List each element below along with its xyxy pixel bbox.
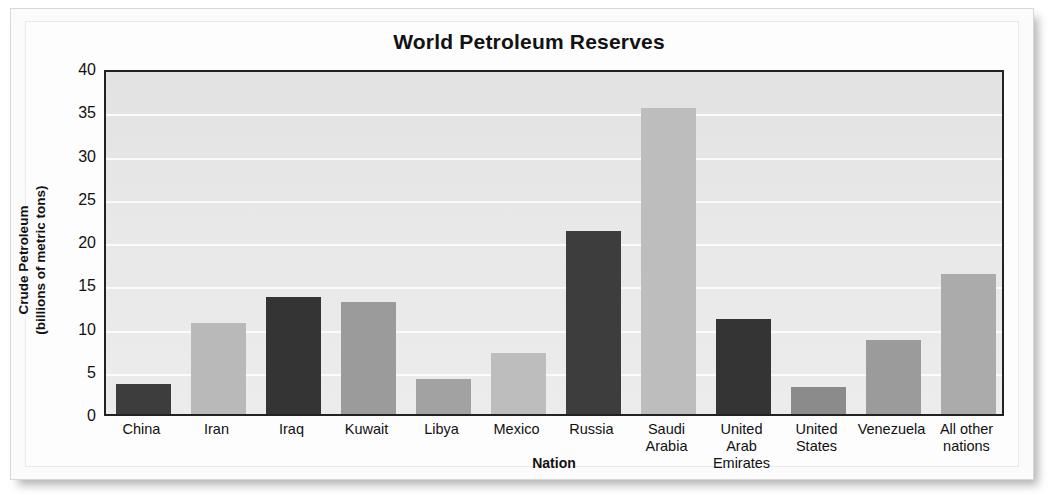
gridline: [106, 244, 1002, 246]
y-tick-label: 0: [50, 407, 96, 425]
x-tick-label: SaudiArabia: [629, 421, 704, 455]
x-tick-label: Russia: [554, 421, 629, 438]
x-tick-label-line: China: [104, 421, 179, 438]
gridline: [106, 114, 1002, 116]
x-axis-title: Nation: [104, 455, 1004, 471]
plot-canvas: [106, 72, 1002, 414]
y-tick-label: 10: [50, 321, 96, 339]
gridline: [106, 158, 1002, 160]
y-tick-label: 30: [50, 148, 96, 166]
x-tick-label-line: Libya: [404, 421, 479, 438]
x-tick-label: Iraq: [254, 421, 329, 438]
y-axis-title-line1: Crude Petroleum: [15, 130, 32, 390]
x-tick-label-line: United Arab: [704, 421, 779, 455]
bar: [566, 231, 621, 414]
y-tick-label: 20: [50, 234, 96, 252]
bar: [791, 387, 846, 414]
chart-title: World Petroleum Reserves: [0, 30, 1058, 54]
bar: [116, 384, 171, 414]
x-tick-label-line: United: [779, 421, 854, 438]
x-tick-label: China: [104, 421, 179, 438]
y-tick-label: 35: [50, 104, 96, 122]
x-tick-label-line: Iran: [179, 421, 254, 438]
x-tick-label: Mexico: [479, 421, 554, 438]
x-tick-label-line: Russia: [554, 421, 629, 438]
y-tick-label: 5: [50, 364, 96, 382]
bar: [941, 274, 996, 414]
x-tick-label-line: Kuwait: [329, 421, 404, 438]
x-tick-label: Venezuela: [854, 421, 929, 438]
plot-area: [104, 70, 1004, 416]
bar: [266, 297, 321, 414]
x-tick-label-line: Venezuela: [854, 421, 929, 438]
bar: [716, 319, 771, 414]
y-tick-label: 25: [50, 191, 96, 209]
x-tick-label-line: States: [779, 438, 854, 455]
x-tick-label: Iran: [179, 421, 254, 438]
x-tick-label-line: All other: [929, 421, 1004, 438]
gridline: [106, 287, 1002, 289]
bar: [191, 323, 246, 414]
x-tick-label-line: Mexico: [479, 421, 554, 438]
y-tick-label: 40: [50, 61, 96, 79]
x-tick-label: Libya: [404, 421, 479, 438]
x-tick-label: Kuwait: [329, 421, 404, 438]
figure-root: World Petroleum Reserves 051015202530354…: [0, 0, 1058, 504]
bar: [641, 108, 696, 414]
x-tick-label: UnitedStates: [779, 421, 854, 455]
bar: [341, 302, 396, 414]
y-axis-title-line2: (billions of metric tons): [32, 130, 49, 390]
x-tick-label-line: Iraq: [254, 421, 329, 438]
bar: [491, 353, 546, 414]
x-tick-label-line: nations: [929, 438, 1004, 455]
gridline: [106, 201, 1002, 203]
y-axis-title: Crude Petroleum (billions of metric tons…: [15, 130, 49, 390]
x-tick-label-line: Arabia: [629, 438, 704, 455]
bar: [866, 340, 921, 414]
bar: [416, 379, 471, 414]
x-tick-label-line: Saudi: [629, 421, 704, 438]
x-tick-label: All othernations: [929, 421, 1004, 455]
y-tick-label: 15: [50, 277, 96, 295]
